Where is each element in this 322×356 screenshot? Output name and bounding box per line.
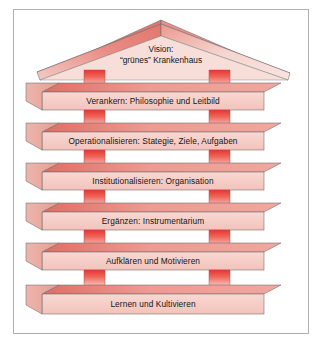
beam-front-face <box>42 92 264 110</box>
beam-front-face <box>42 172 264 190</box>
beam-top-face <box>42 243 281 252</box>
level-beam-3[interactable] <box>26 163 281 190</box>
level-beam-5[interactable] <box>26 243 281 270</box>
diagram-canvas: Vision: “grünes” Krankenhaus Verankern: … <box>0 0 322 356</box>
beam-top-face <box>42 203 281 212</box>
beam-top-face <box>42 123 281 132</box>
level-beam-1[interactable] <box>26 83 281 110</box>
beam-front-face <box>42 252 264 270</box>
house-pyramid-graphic <box>0 0 322 356</box>
beam-front-face <box>42 212 264 230</box>
beam-top-face <box>42 163 281 172</box>
level-beam-2[interactable] <box>26 123 281 150</box>
beam-front-face <box>42 132 264 150</box>
beam-front-face <box>42 294 264 314</box>
level-beam-6[interactable] <box>26 285 281 314</box>
beam-top-face <box>42 83 281 92</box>
roof-gable <box>37 20 290 80</box>
beam-top-face <box>42 285 281 294</box>
level-beam-4[interactable] <box>26 203 281 230</box>
